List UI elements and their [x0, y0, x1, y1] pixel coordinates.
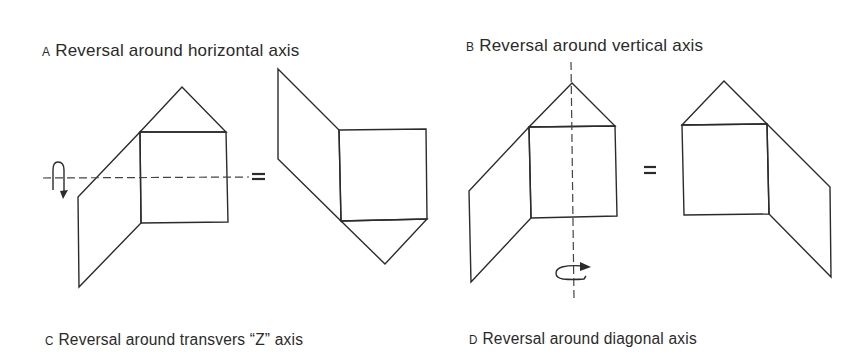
house-square-reversed [682, 124, 769, 215]
horizontal-axis-line [43, 177, 249, 178]
rotation-arrow-icon [53, 162, 68, 199]
house-roof-triangle-reversed [341, 219, 427, 264]
side-panel-left [469, 127, 531, 282]
panel-a [43, 69, 427, 287]
house-roof-triangle-reversed [682, 81, 767, 125]
house-square [529, 126, 617, 218]
panel-a-original-figure [78, 87, 228, 287]
side-panel-left-reversed [278, 69, 341, 221]
panel-b-reversed-figure [682, 81, 831, 277]
panel-b [469, 62, 831, 300]
house-roof-triangle [140, 87, 226, 132]
equals-sign-a [252, 174, 265, 179]
panel-a-reversed-figure [278, 69, 427, 264]
vertical-axis-line [571, 62, 574, 300]
side-panel-left [78, 132, 141, 287]
side-panel-right-reversed [767, 124, 831, 277]
house-square-reversed [339, 129, 427, 221]
panel-b-original-figure [469, 83, 617, 282]
reversal-diagram [0, 0, 862, 355]
equals-sign-b [644, 167, 656, 173]
